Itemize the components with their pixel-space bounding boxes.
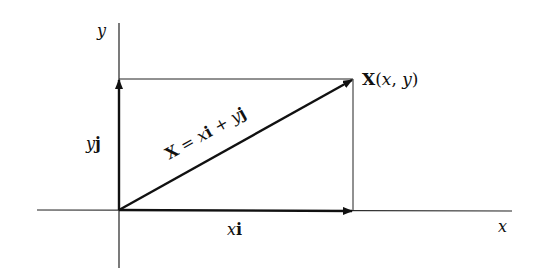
point-label: X(x, y) bbox=[362, 69, 419, 89]
yj-label: yj bbox=[85, 134, 101, 153]
vector-X bbox=[119, 80, 352, 210]
y-axis-label: y bbox=[96, 21, 107, 40]
xi-label: xi bbox=[227, 220, 242, 239]
vector-xi bbox=[119, 210, 352, 211]
resultant-label: X = xi + yj bbox=[162, 103, 249, 163]
x-axis-label: x bbox=[498, 217, 507, 236]
vector-diagram: y x yj xi X = xi + yj X(x, y) bbox=[0, 0, 541, 270]
